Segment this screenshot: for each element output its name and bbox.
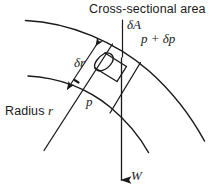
label-radius-r: Radius r bbox=[5, 104, 53, 118]
figure-container: Cross-sectional area δA p + δp δr p Radi… bbox=[0, 0, 213, 192]
label-pressure-lower: p bbox=[86, 95, 93, 108]
label-delta-r: δr bbox=[74, 56, 85, 69]
radial-line-right bbox=[110, 63, 141, 114]
label-radius-word: Radius bbox=[5, 104, 45, 118]
inner-arc-tick bbox=[75, 80, 79, 83]
element-side-upper bbox=[105, 53, 127, 67]
label-pressure-upper: p + δp bbox=[141, 32, 175, 45]
label-weight: W bbox=[131, 169, 142, 182]
label-radius-symbol: r bbox=[48, 103, 53, 118]
label-delta-a: δA bbox=[127, 18, 141, 31]
label-cross-sectional-area: Cross-sectional area bbox=[89, 3, 206, 16]
diagram-canvas bbox=[0, 0, 213, 192]
